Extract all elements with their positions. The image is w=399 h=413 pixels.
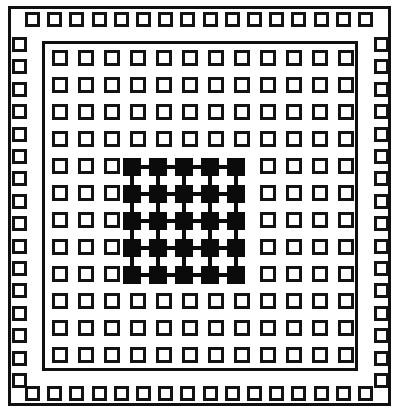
filled-pad: [227, 266, 245, 284]
filled-pad: [149, 158, 167, 176]
filled-pad: [227, 158, 245, 176]
filled-pad: [201, 158, 219, 176]
filled-pad: [175, 266, 193, 284]
filled-pad: [175, 158, 193, 176]
filled-pad: [201, 266, 219, 284]
filled-pad: [175, 212, 193, 230]
filled-pad: [123, 185, 141, 203]
filled-pad: [149, 185, 167, 203]
filled-pad: [123, 266, 141, 284]
filled-pad: [201, 239, 219, 257]
filled-pad: [227, 212, 245, 230]
figure-canvas: [0, 0, 399, 413]
filled-pad: [175, 185, 193, 203]
filled-pad-block: [0, 0, 399, 413]
filled-pad: [201, 212, 219, 230]
filled-pad: [123, 212, 141, 230]
filled-pad: [227, 185, 245, 203]
filled-pad: [123, 158, 141, 176]
filled-pad: [149, 266, 167, 284]
filled-pad: [123, 239, 141, 257]
filled-pad: [227, 239, 245, 257]
filled-pad: [149, 239, 167, 257]
filled-pad: [149, 212, 167, 230]
filled-pad: [201, 185, 219, 203]
filled-pad: [175, 239, 193, 257]
